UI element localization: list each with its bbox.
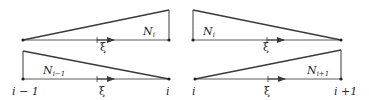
panel-bottom-right: Ni+1 ξ i i +1 (192, 50, 357, 98)
shape-label: Ni (142, 25, 155, 39)
shape-label: Ni (202, 25, 215, 39)
coord-label: ξ (99, 85, 105, 98)
shape-function-slope (193, 10, 341, 40)
panel-top-right: Ni ξ (191, 10, 342, 54)
node-dot (191, 38, 194, 41)
node-dot (167, 77, 170, 80)
node-label-left: i − 1 (12, 85, 39, 98)
coord-label: ξ (264, 85, 270, 98)
node-dot (339, 77, 342, 80)
node-label-right: i (166, 85, 170, 98)
shape-label: Ni+1 (306, 64, 329, 78)
shape-label: Ni−1 (42, 64, 65, 78)
shape-function-diagram: Ni ξ Ni ξ Ni−1 ξ i − 1 i Ni+1 (0, 0, 369, 100)
node-dot (21, 38, 24, 41)
node-dot (167, 38, 170, 41)
node-dot (21, 77, 24, 80)
node-dot (193, 77, 196, 80)
node-label-left: i (192, 85, 196, 98)
node-label-right: i +1 (334, 85, 357, 98)
node-dot (339, 38, 342, 41)
panel-top-left: Ni ξ (21, 10, 170, 54)
panel-bottom-left: Ni−1 ξ i − 1 i (12, 51, 171, 98)
coord-label: ξ (100, 41, 106, 54)
coord-label: ξ (263, 41, 269, 54)
